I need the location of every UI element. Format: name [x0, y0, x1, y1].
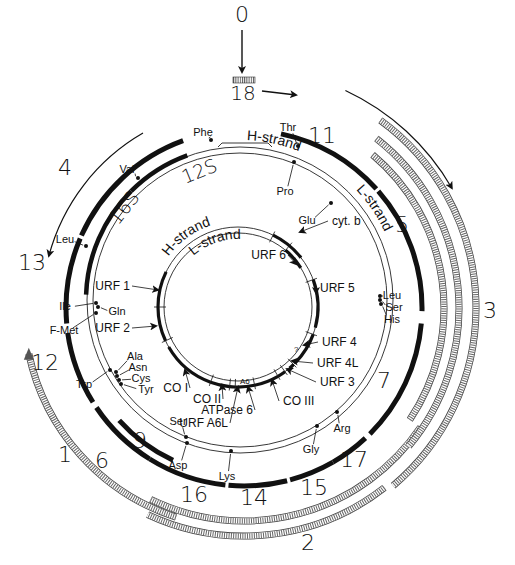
trna-dot-trp: [108, 368, 112, 372]
gene-label-urf-3: URF 3: [320, 375, 355, 389]
rrna-12S: [131, 155, 187, 191]
inner-double-circle: H-strandL-strand: [154, 213, 318, 391]
gene-label-co-iii: CO III: [283, 394, 314, 408]
gene-pointer-arrow-icon: [287, 369, 316, 382]
gene-pointer-arrow-icon: [132, 286, 158, 290]
gene-labels: 12S16SPheValLeuThrProGluIleGlnF-MetTrpAl…: [50, 121, 403, 482]
trna-label-val: Val: [119, 163, 134, 175]
trna-dot-tyr: [119, 382, 123, 386]
gene-label-urf-1: URF 1: [95, 279, 130, 293]
gene-arc-urf-3: [278, 372, 285, 377]
trna-dot-cys: [117, 378, 121, 382]
trna-dot-leu: [84, 244, 88, 248]
trna-label-arg: Arg: [333, 422, 350, 434]
trna-dot-his: [379, 302, 383, 306]
transcript-label-5: 5: [395, 212, 409, 237]
trna-leader-line: [122, 379, 131, 380]
origin-zero-label: 0: [235, 2, 249, 27]
trna-dot-gln: [96, 305, 100, 309]
trna-leader-line: [75, 303, 93, 306]
annotation-question: ?: [294, 345, 299, 354]
trna-dot-f-met: [94, 311, 98, 315]
transcript-label-4: 4: [58, 155, 72, 180]
trna-dot-asp: [185, 441, 189, 445]
trna-label-leu: Leu: [56, 233, 74, 245]
trna-leader-line: [313, 429, 316, 444]
trna-leader-line: [101, 308, 107, 311]
trna-dot-val: [136, 176, 140, 180]
trna-label-trp: Trp: [76, 378, 92, 390]
gene-arc-co-iii: [255, 376, 278, 385]
gene-label-cyt-b: cyt. b: [332, 214, 361, 228]
transcript-label-9: 9: [133, 428, 147, 453]
gene-label-urf-5: URF 5: [320, 281, 355, 295]
gene-label-urf-a6l: URF A6L: [179, 416, 228, 430]
transcript-label-13: 13: [18, 250, 46, 275]
trna-dot-ser: [378, 298, 382, 302]
trna-label-asp: Asp: [169, 459, 188, 471]
trna-label-gln: Gln: [108, 305, 125, 317]
trna-dot-ile: [94, 301, 98, 305]
transcript-label-15: 15: [300, 475, 328, 500]
trna-leader-line: [229, 454, 231, 471]
trna-dot-arg: [335, 410, 339, 414]
trna-dot-leu: [378, 294, 382, 298]
transcript-label-1: 1: [58, 442, 72, 467]
transcript-label-3: 3: [483, 298, 497, 323]
transcript-label-7: 7: [377, 368, 391, 393]
origin-side-arrow-icon: [262, 91, 296, 95]
gene-label-urf-4l: URF 4L: [317, 356, 359, 370]
trna-dot-ser: [184, 435, 188, 439]
trna-leader-line: [124, 385, 136, 389]
trna-leader-line: [120, 370, 129, 375]
trna-label-gly: Gly: [303, 443, 320, 455]
trna-leader-line: [118, 361, 127, 370]
trna-dot-asn: [115, 374, 119, 378]
rrna-label-12S: 12S: [178, 154, 220, 188]
gene-arc-co-ii: [211, 382, 230, 386]
gene-arc-urf-5: [313, 280, 318, 328]
transcript-label-11: 11: [308, 123, 336, 148]
mtdna-genome-map: 0 18 123 4115717151416131269 H-strandL-s…: [0, 0, 515, 565]
trna-dot-pro: [292, 160, 296, 164]
origin-18-label: 18: [230, 81, 255, 105]
gene-arc-urf-4l: [289, 365, 293, 369]
gene-pointer-arrow-icon: [272, 380, 279, 401]
trna-leader-line: [93, 371, 108, 382]
trna-leader-line: [288, 165, 293, 186]
trna-dot-lys: [229, 449, 233, 453]
trna-label-thr: Thr: [280, 121, 297, 133]
trna-dot-gly: [315, 424, 319, 428]
transcript-label-12: 12: [31, 350, 59, 375]
trna-leader-line: [315, 205, 329, 218]
trna-label-ile: Ile: [59, 300, 71, 312]
gene-arc-urf-1: [158, 272, 166, 307]
gene-arc-co-i: [169, 347, 211, 382]
hatched-transcript-1: [29, 354, 176, 518]
transcript-label-14: 14: [240, 485, 268, 510]
trna-dot-ala: [114, 370, 118, 374]
trna-label-his: His: [384, 313, 400, 325]
gene-label-urf-6: URF 6: [251, 248, 286, 262]
hatched-transcript-outline: [29, 354, 176, 518]
transcript-label-17: 17: [340, 447, 368, 472]
gene-label-urf-2: URF 2: [95, 321, 130, 335]
trna-dot-phe: [209, 138, 213, 142]
transcript-bar-12: [68, 333, 93, 403]
trna-label-lys: Lys: [219, 470, 236, 482]
gene-label-urf-4: URF 4: [322, 335, 357, 349]
trna-dot-thr: [296, 144, 300, 148]
trna-dot-glu: [329, 201, 333, 205]
trna-label-f-met: F-Met: [50, 324, 79, 336]
gene-label-co-i: CO I: [163, 381, 188, 395]
trna-label-glu: Glu: [298, 214, 315, 226]
hatched-transcript-fill: [29, 354, 176, 518]
origin-marker: 0 18: [230, 2, 296, 105]
gene-label-co-ii: CO II: [193, 392, 221, 406]
transcript-label-2: 2: [301, 530, 315, 555]
genome-map-canvas: 0 18 123 4115717151416131269 H-strandL-s…: [0, 0, 515, 565]
gene-pointer-arrow-icon: [132, 326, 156, 328]
annotation-a6: A6: [240, 377, 250, 386]
trna-label-ser: Ser: [385, 301, 402, 313]
transcript-label-16: 16: [180, 482, 208, 507]
